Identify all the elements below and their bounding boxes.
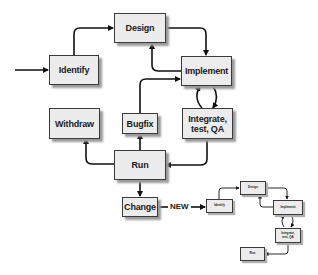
run-label: Run <box>132 160 149 170</box>
mini-run-label: Run <box>250 252 256 256</box>
integrate-to-implement-arrow <box>197 86 202 108</box>
bugfix-node: Bugfix <box>122 113 158 134</box>
design-label: Design <box>126 23 155 33</box>
implement-to-design-arrow <box>152 44 181 71</box>
mini-identify-label: Identify <box>214 204 225 208</box>
withdraw-node: Withdraw <box>49 108 100 139</box>
identify-to-design-arrow <box>74 28 113 55</box>
change-node: Change <box>122 197 158 217</box>
change-label: Change <box>124 202 156 212</box>
mini-design-label: Design <box>248 186 258 190</box>
mini-identify-node: Identify <box>206 199 233 213</box>
lifecycle-diagram: Design Identify Implement Integrate, tes… <box>0 0 318 275</box>
integrate-test-qa-node: Integrate, test, QA <box>182 108 233 139</box>
mini-design-node: Design <box>240 181 266 195</box>
identify-node: Identify <box>49 55 99 85</box>
run-node: Run <box>114 150 166 180</box>
run-to-withdraw-arrow <box>86 139 114 164</box>
bugfix-label: Bugfix <box>127 119 154 129</box>
integrate-label: Integrate, test, QA <box>188 114 227 134</box>
bugfix-to-implement-arrow <box>140 79 180 113</box>
identify-label: Identify <box>59 65 89 75</box>
mini-implement-node: Implement <box>273 200 303 215</box>
implement-to-integrate-arrow <box>213 86 217 108</box>
integrate-to-run-arrow <box>166 139 207 165</box>
mini-integrate-label: Integrate, test, QA <box>281 232 295 239</box>
mini-integrate-node: Integrate, test, QA <box>275 228 301 243</box>
withdraw-label: Withdraw <box>55 119 94 129</box>
design-node: Design <box>114 13 166 43</box>
implement-node: Implement <box>181 56 232 86</box>
new-label: NEW <box>170 202 189 211</box>
design-to-implement-arrow <box>166 28 206 55</box>
mini-run-node: Run <box>240 247 265 261</box>
implement-label: Implement <box>185 66 228 76</box>
mini-implement-label: Implement <box>280 206 295 210</box>
